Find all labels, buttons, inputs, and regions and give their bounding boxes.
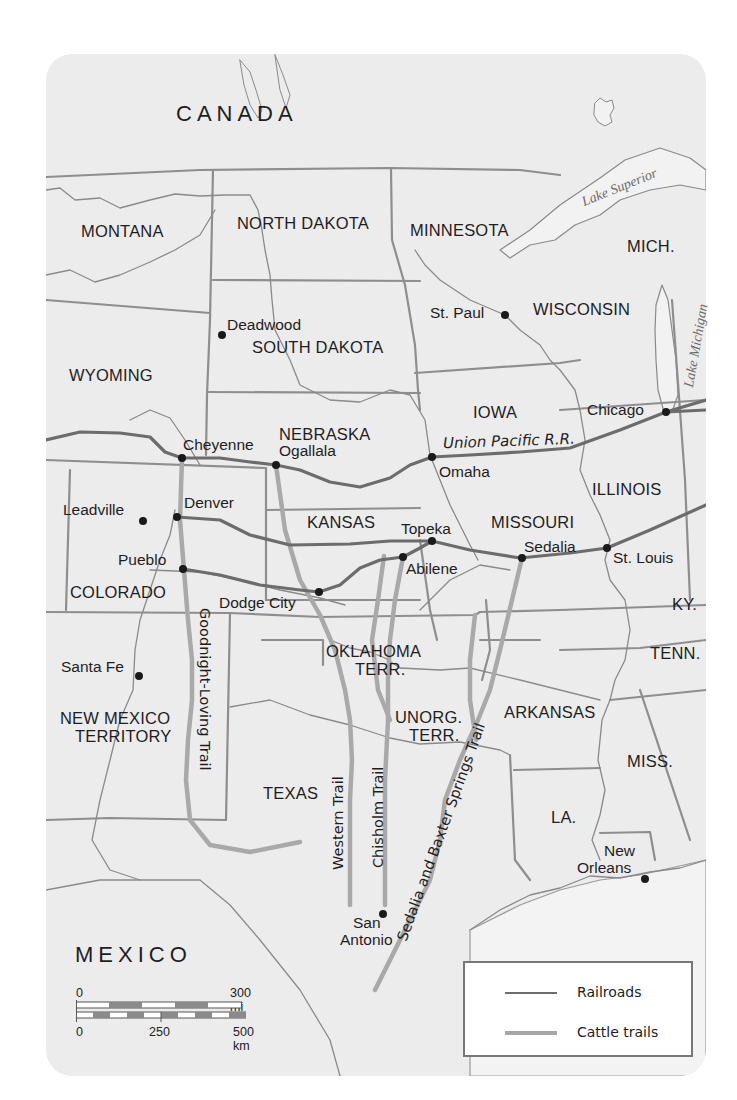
city-label-san-antonio: San: [353, 915, 381, 931]
city-dot-santa-fe: [135, 672, 143, 680]
state-label-oklahoma-line2: TERR.: [355, 661, 406, 678]
city-dot-denver: [173, 513, 181, 521]
city-label-new-orleans-line2: Orleans: [577, 860, 631, 876]
state-label-kansas: KANSAS: [307, 514, 375, 531]
state-label-wisconsin: WISCONSIN: [533, 301, 630, 318]
city-dot-deadwood: [218, 331, 226, 339]
legend: Railroads Cattle trails: [463, 961, 693, 1057]
city-label-abilene: Abilene: [406, 561, 458, 577]
trail-label-goodnight-loving: Goodnight-Loving Trail: [198, 608, 213, 771]
state-label-nebraska: NEBRASKA: [279, 426, 370, 443]
state-label-arkansas: ARKANSAS: [504, 704, 595, 721]
scale-miles-zero: 0: [76, 986, 83, 1000]
city-label-deadwood: Deadwood: [227, 317, 301, 333]
city-label-omaha: Omaha: [439, 464, 490, 480]
state-label-south-dakota: SOUTH DAKOTA: [252, 339, 383, 356]
cattle-trail-line-icon: [505, 1031, 557, 1035]
state-label-colorado: COLORADO: [70, 584, 166, 601]
state-label-minnesota: MINNESOTA: [410, 222, 509, 239]
state-label-north-dakota: NORTH DAKOTA: [237, 215, 369, 232]
city-label-cheyenne: Cheyenne: [183, 437, 254, 453]
state-label-missouri: MISSOURI: [491, 514, 574, 531]
city-dot-new-orleans: [641, 875, 649, 883]
city-dot-omaha: [428, 453, 436, 461]
state-label-wyoming: WYOMING: [69, 367, 153, 384]
state-label-iowa: IOWA: [473, 404, 517, 421]
city-label-new-orleans: New: [604, 843, 635, 859]
state-label-la: LA.: [551, 809, 576, 826]
state-label-montana: MONTANA: [81, 223, 164, 240]
city-dot-chicago: [662, 408, 670, 416]
city-dot-ogallala: [272, 461, 280, 469]
scale-km-mid: 250: [149, 1025, 170, 1039]
city-label-dodge-city: Dodge City: [219, 595, 296, 611]
trail-label-western: Western Trail: [331, 776, 346, 870]
city-dot-topeka: [428, 537, 436, 545]
state-label-mich: MICH.: [627, 238, 675, 255]
railroad-line-icon: [505, 992, 557, 994]
scale-bar-graphic: [76, 1000, 256, 1024]
state-label-ky: KY.: [672, 596, 697, 613]
lake-superior-shape: [500, 148, 706, 258]
city-label-st-paul: St. Paul: [430, 305, 484, 321]
city-label-san-antonio-line2: Antonio: [340, 932, 393, 948]
city-dot-sedalia: [518, 554, 526, 562]
state-label-new-mexico-line2: TERRITORY: [75, 728, 172, 745]
country-label-canada: CANADA: [176, 103, 298, 125]
railroad-label-union-pacific: Union Pacific R.R.: [443, 432, 575, 452]
scale-bar: 0 300 mi 0 250 500 km: [76, 986, 256, 1046]
city-label-st-louis: St. Louis: [613, 550, 673, 566]
chisholm-trail: [385, 557, 403, 905]
city-label-sedalia: Sedalia: [524, 539, 576, 555]
scale-km-max: 500 km: [233, 1025, 256, 1053]
city-label-pueblo: Pueblo: [118, 552, 166, 568]
legend-item-railroads: Railroads: [465, 983, 691, 1003]
scale-km-zero: 0: [76, 1025, 83, 1039]
city-dot-dodge-city: [315, 588, 323, 596]
city-label-ogallala: Ogallala: [279, 443, 336, 459]
city-dot-cheyenne: [178, 454, 186, 462]
state-label-texas: TEXAS: [263, 785, 318, 802]
state-label-oklahoma: OKLAHOMA: [326, 643, 421, 660]
legend-item-cattle-trails: Cattle trails: [465, 1023, 691, 1043]
state-label-miss: MISS.: [627, 753, 673, 770]
country-label-mexico: MEXICO: [75, 944, 192, 966]
legend-label-cattle-trails: Cattle trails: [577, 1024, 658, 1040]
city-dot-st-paul: [501, 311, 509, 319]
city-dot-leadville: [139, 517, 147, 525]
state-label-new-mexico: NEW MEXICO: [60, 710, 170, 727]
legend-label-railroads: Railroads: [577, 984, 642, 1000]
state-label-illinois: ILLINOIS: [592, 481, 661, 498]
trail-label-chisholm: Chisholm Trail: [371, 767, 386, 868]
state-label-unorg-line2: TERR.: [409, 727, 460, 744]
state-label-unorg: UNORG.: [395, 709, 462, 726]
city-dot-st-louis: [603, 544, 611, 552]
city-label-chicago: Chicago: [587, 402, 644, 418]
city-label-denver: Denver: [184, 495, 234, 511]
city-label-leadville: Leadville: [63, 502, 124, 518]
state-label-tenn: TENN.: [650, 645, 701, 662]
city-label-topeka: Topeka: [401, 521, 451, 537]
city-dot-pueblo: [179, 565, 187, 573]
city-label-santa-fe: Santa Fe: [61, 659, 124, 675]
